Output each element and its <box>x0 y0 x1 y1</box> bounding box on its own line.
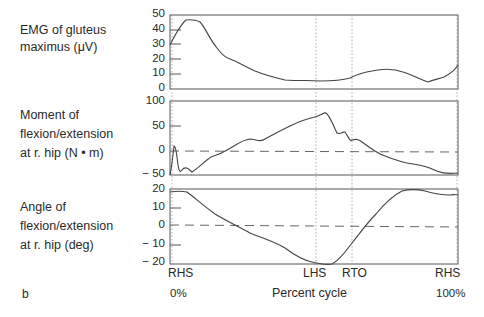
figure-label: b <box>22 287 29 301</box>
event-label-rhs-end: RHS <box>435 266 460 280</box>
x-start-label: 0% <box>170 287 187 299</box>
event-label-lhs: LHS <box>303 266 326 280</box>
event-label-rhs-start: RHS <box>168 266 193 280</box>
event-label-rto: RTO <box>342 266 367 280</box>
p3-zero-line <box>170 225 458 227</box>
x-axis-title: Percent cycle <box>272 286 347 300</box>
p2-zero-line <box>170 151 458 152</box>
moment-curve <box>170 113 458 175</box>
panel1-frame <box>170 15 458 89</box>
x-end-label: 100% <box>436 287 465 299</box>
emg-curve <box>170 20 458 82</box>
gait-chart <box>0 0 484 317</box>
